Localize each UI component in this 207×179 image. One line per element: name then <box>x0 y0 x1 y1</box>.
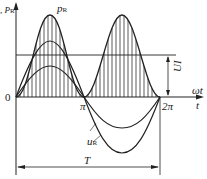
t-label: t <box>196 100 199 111</box>
pi-label: π <box>80 101 86 112</box>
pR-curve <box>16 15 160 97</box>
power-waveform-diagram: u, i, p, PR pR 0 π 2π ωt t uR UI T <box>0 0 207 179</box>
period-label: T <box>84 155 90 166</box>
origin-label: 0 <box>5 92 11 103</box>
ui-label: UI <box>172 60 183 72</box>
y-axis-label: u, i, p, PR <box>0 6 15 15</box>
pR-label: pR <box>57 3 67 14</box>
power-hatch <box>20 0 156 97</box>
uR-label: uR <box>87 136 97 147</box>
omega-t-label: ωt <box>192 85 203 96</box>
two-pi-label: 2π <box>162 101 173 112</box>
diagram-canvas <box>0 0 207 179</box>
